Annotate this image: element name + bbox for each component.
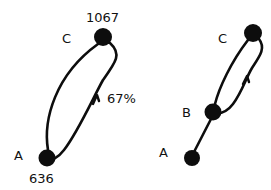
node-c-label: C xyxy=(218,31,227,46)
node-c[interactable] xyxy=(244,24,262,42)
node-a-label: A xyxy=(159,145,168,160)
node-c-value: 1067 xyxy=(86,10,119,25)
node-b[interactable] xyxy=(205,104,222,121)
node-a-value: 636 xyxy=(29,171,54,186)
graph-figure: A C 636 1067 67% A B C xyxy=(0,0,271,190)
node-c-label: C xyxy=(62,31,71,46)
node-a[interactable] xyxy=(39,150,56,167)
node-c[interactable] xyxy=(94,28,112,46)
edge-a-c-right-label: 67% xyxy=(107,91,136,106)
node-a-label: A xyxy=(14,148,23,163)
node-b-label: B xyxy=(182,105,191,120)
node-a[interactable] xyxy=(184,150,200,166)
